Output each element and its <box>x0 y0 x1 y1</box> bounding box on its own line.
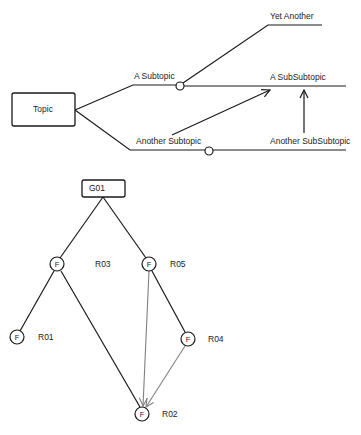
topic-label: Topic <box>33 104 54 114</box>
edge-r05-r04 <box>152 271 185 332</box>
node-r04-glyph: F <box>186 335 191 344</box>
node-r04-label: R04 <box>208 334 224 344</box>
edge-r03-r01 <box>20 271 54 331</box>
node-r05-glyph: F <box>147 260 152 269</box>
edge-g01-r05 <box>103 197 146 258</box>
branch-a-subtopic-line <box>75 85 176 110</box>
another-subsubtopic-label: Another SubSubtopic <box>270 136 351 146</box>
tree: G01 F R03 F R05 F R01 F R04 F R02 <box>10 180 224 421</box>
another-subtopic-connector[interactable] <box>205 147 213 155</box>
edge-r03-r02 <box>61 271 140 407</box>
node-r03-label: R03 <box>95 259 111 269</box>
node-r02-glyph: F <box>140 410 145 419</box>
edge-r04-r02 <box>146 346 185 407</box>
edge-g01-r03 <box>60 197 103 258</box>
a-subsubtopic-label: A SubSubtopic <box>270 72 327 82</box>
node-r02-label: R02 <box>162 409 178 419</box>
node-r01-label: R01 <box>38 332 54 342</box>
node-r01-glyph: F <box>15 333 20 342</box>
branch-another-subtopic-label: Another Subtopic <box>136 136 202 146</box>
mindmap: Topic A Subtopic Yet Another A SubSubtop… <box>12 11 351 155</box>
a-subtopic-connector[interactable] <box>176 82 184 90</box>
relation-arrow-diagonal <box>172 90 270 135</box>
edge-r05-r02 <box>143 271 149 406</box>
g01-label: G01 <box>89 183 105 193</box>
node-r03-glyph: F <box>55 260 60 269</box>
yet-another-label: Yet Another <box>270 11 314 21</box>
branch-a-subtopic-label: A Subtopic <box>134 71 175 81</box>
diagram-canvas: Topic A Subtopic Yet Another A SubSubtop… <box>0 0 361 435</box>
node-r05-label: R05 <box>170 259 186 269</box>
